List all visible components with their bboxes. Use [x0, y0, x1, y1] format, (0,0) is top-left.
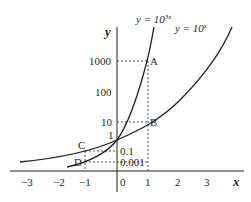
point-b-label: B	[150, 116, 157, 128]
x-tick-2: 2	[175, 176, 181, 188]
y-tick-100: 100	[95, 86, 112, 98]
x-tick-m1: −1	[79, 176, 91, 188]
x-tick-m3: −3	[21, 176, 33, 188]
x-axis-label: x	[232, 174, 240, 189]
y-tick-10: 10	[101, 116, 113, 128]
y-tick-0-001: 0.001	[120, 156, 145, 168]
x-tick-1: 1	[145, 176, 151, 188]
exponential-graph: y = 103x y = 10x y x −3 −2 −1 0 1 2 3 10…	[0, 0, 251, 202]
y-tick-1000: 1000	[89, 55, 112, 67]
curve-10-x-label: y = 10x	[174, 22, 208, 34]
point-a-label: A	[150, 55, 158, 67]
x-tick-3: 3	[204, 176, 210, 188]
x-tick-m2: −2	[53, 176, 65, 188]
point-d-label: D	[74, 156, 82, 168]
x-tick-0: 0	[120, 176, 126, 188]
point-c-label: C	[78, 139, 85, 151]
y-axis-label: y	[103, 24, 111, 39]
y-tick-1: 1	[108, 129, 114, 141]
curve-10-3x-label: y = 103x	[135, 13, 172, 25]
curve-10-x	[20, 27, 232, 162]
